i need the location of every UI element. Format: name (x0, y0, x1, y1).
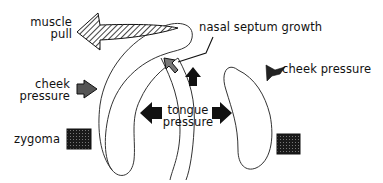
zygoma-left-block (67, 129, 91, 149)
cheek-pressure-left-arrow (77, 80, 97, 98)
pressure-label-line: pressure (160, 116, 216, 128)
tongue-pressure-left-arrow (140, 102, 162, 124)
left-maxilla-outer-curve (99, 28, 160, 170)
zygoma-right-block (277, 134, 300, 154)
pull-label-line: pull (22, 28, 72, 40)
muscle-pull-label: muscle pull (22, 16, 72, 40)
zygoma-label: zygoma (14, 133, 60, 145)
tongue-pressure-label: tongue pressure (160, 104, 216, 128)
nasal-septum-growth-label: nasal septum growth (199, 21, 322, 33)
left-maxilla-outline (105, 23, 192, 175)
nasal-septum-pointer-line (178, 37, 213, 62)
nasal-septum-arrow (164, 58, 178, 73)
cheek-pressure-left-label: cheek pressure (12, 78, 70, 102)
facial-growth-diagram: muscle pull nasal septum growth cheek pr… (0, 0, 383, 183)
pressure-label-line: pressure (12, 90, 70, 102)
cheek-pressure-right-label: cheek pressure (282, 63, 371, 75)
muscle-pull-hatched-arrow (77, 13, 178, 50)
upward-growth-arrow (185, 67, 201, 86)
right-maxilla-outline (224, 67, 272, 169)
